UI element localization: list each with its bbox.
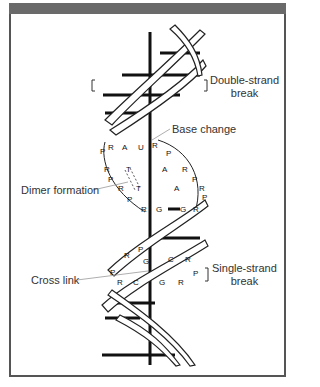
label-line-1: Double-strand — [210, 74, 279, 87]
svg-text:C: C — [133, 278, 139, 287]
label-cross-link: Cross link — [31, 274, 79, 287]
label-line-1: Single-strand — [212, 262, 277, 275]
svg-text:P: P — [202, 193, 207, 202]
svg-text:P: P — [138, 245, 143, 254]
label-double-strand-break: Double-strand break — [210, 74, 279, 100]
svg-text:G: G — [143, 257, 149, 266]
svg-text:P: P — [193, 269, 198, 278]
svg-text:R: R — [118, 184, 124, 193]
svg-text:P: P — [127, 195, 132, 204]
svg-text:R: R — [152, 141, 158, 150]
svg-text:R: R — [104, 165, 110, 174]
svg-text:G: G — [156, 205, 162, 214]
svg-text:T: T — [126, 165, 131, 174]
svg-text:R: R — [117, 278, 123, 287]
svg-text:G: G — [159, 278, 165, 287]
label-base-change: Base change — [172, 123, 236, 136]
svg-text:R: R — [185, 255, 191, 264]
svg-text:A: A — [174, 184, 180, 193]
svg-text:A: A — [162, 165, 168, 174]
label-dimer-formation: Dimer formation — [21, 184, 99, 197]
svg-text:R: R — [124, 251, 130, 260]
svg-text:R: R — [141, 205, 147, 214]
label-line-2: break — [212, 275, 277, 288]
svg-text:P: P — [192, 175, 197, 184]
label-single-strand-break: Single-strand break — [212, 262, 277, 288]
svg-text:T: T — [136, 184, 141, 193]
svg-text:G: G — [180, 205, 186, 214]
svg-text:P: P — [100, 147, 105, 156]
svg-text:R: R — [108, 143, 114, 152]
svg-text:R: R — [199, 184, 205, 193]
svg-text:P: P — [110, 268, 115, 277]
svg-text:R: R — [182, 165, 188, 174]
svg-text:P: P — [108, 175, 113, 184]
svg-text:P: P — [166, 149, 171, 158]
svg-text:C: C — [168, 255, 174, 264]
svg-text:U: U — [138, 143, 144, 152]
label-line-2: break — [210, 87, 279, 100]
svg-text:R: R — [193, 205, 199, 214]
svg-text:R: R — [178, 278, 184, 287]
svg-text:A: A — [122, 143, 128, 152]
